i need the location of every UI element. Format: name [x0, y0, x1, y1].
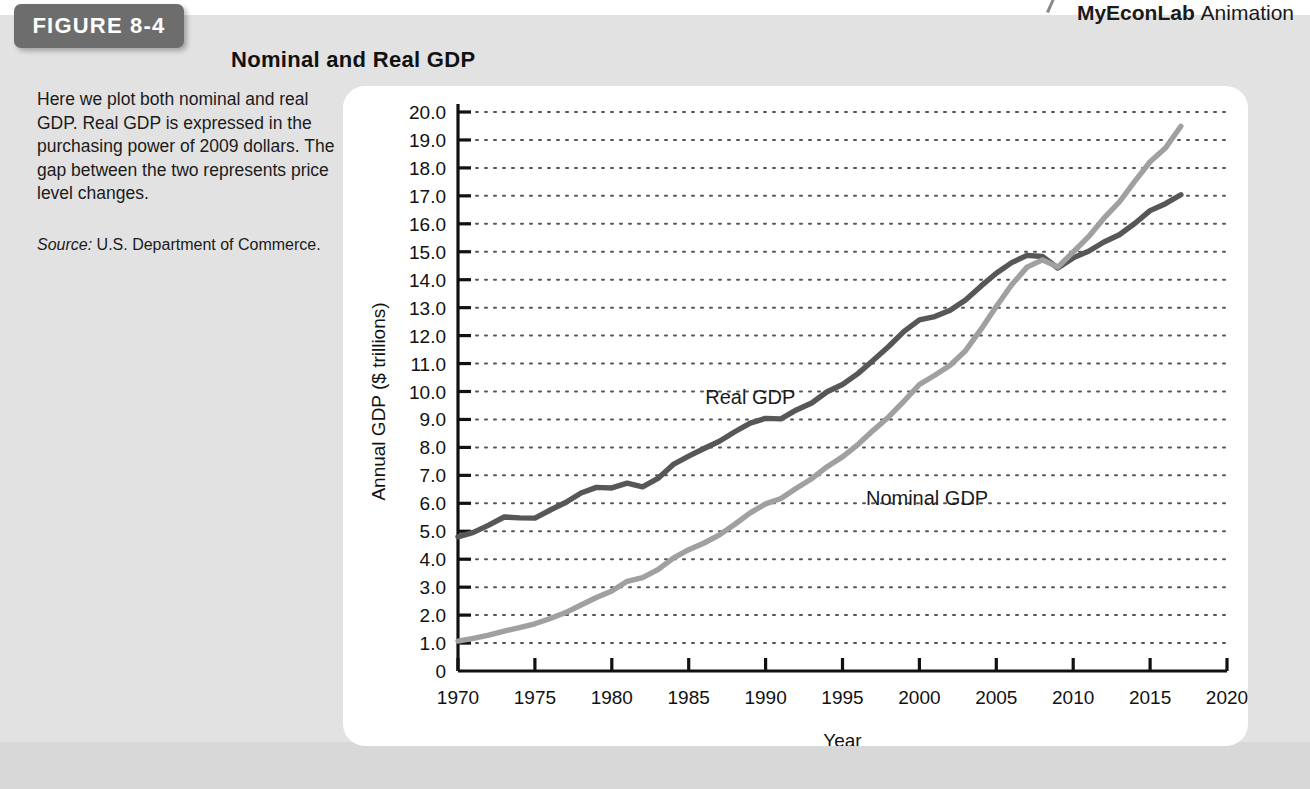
figure-source: Source: U.S. Department of Commerce.: [37, 236, 357, 254]
gdp-line-chart: 01.02.03.04.05.06.07.08.09.010.011.012.0…: [343, 86, 1248, 746]
y-tick-label: 19.0: [409, 130, 446, 151]
figure-caption: Here we plot both nominal and real GDP. …: [37, 88, 337, 206]
myeconlab-animation-word: Animation: [1201, 1, 1294, 24]
y-tick-label: 3.0: [420, 577, 446, 598]
axes: [458, 104, 1227, 671]
y-tick-label: 2.0: [420, 605, 446, 626]
source-text: U.S. Department of Commerce.: [97, 236, 321, 253]
x-tick-label: 1970: [437, 687, 479, 708]
page-gray-field-bottom: [0, 742, 1310, 789]
y-tick-label: 12.0: [409, 326, 446, 347]
y-tick-label: 16.0: [409, 214, 446, 235]
x-tick-label: 2010: [1052, 687, 1094, 708]
source-label: Source:: [37, 236, 92, 253]
y-tick-label: 17.0: [409, 186, 446, 207]
x-tick-label: 1990: [744, 687, 786, 708]
figure-number-badge: FIGURE 8-4: [14, 4, 184, 48]
y-tick-label: 4.0: [420, 549, 446, 570]
y-tick-label: 6.0: [420, 493, 446, 514]
y-tick-label: 13.0: [409, 298, 446, 319]
figure-number-label: FIGURE 8-4: [14, 4, 184, 48]
series-line-real-gdp: [458, 195, 1181, 537]
y-tick-label: 14.0: [409, 270, 446, 291]
y-axis-title: Annual GDP ($ trillions): [368, 302, 389, 500]
series-label-real-gdp: Real GDP: [705, 386, 795, 408]
y-axis-ticks: 01.02.03.04.05.06.07.08.09.010.011.012.0…: [409, 102, 471, 682]
y-tick-label: 15.0: [409, 242, 446, 263]
x-tick-label: 1995: [821, 687, 863, 708]
y-tick-label: 0: [435, 661, 446, 682]
y-tick-label: 18.0: [409, 158, 446, 179]
x-tick-label: 1980: [591, 687, 633, 708]
y-tick-label: 9.0: [420, 409, 446, 430]
x-tick-label: 2015: [1129, 687, 1171, 708]
myeconlab-label: MyEconLab Animation: [1077, 1, 1294, 25]
y-tick-label: 20.0: [409, 102, 446, 123]
y-tick-label: 7.0: [420, 465, 446, 486]
y-tick-label: 1.0: [420, 633, 446, 654]
chart-card: 01.02.03.04.05.06.07.08.09.010.011.012.0…: [343, 86, 1248, 746]
y-tick-label: 11.0: [410, 354, 446, 375]
x-tick-label: 1975: [514, 687, 556, 708]
x-tick-label: 2000: [898, 687, 940, 708]
y-tick-label: 5.0: [420, 521, 446, 542]
y-tick-label: 8.0: [420, 437, 446, 458]
x-tick-label: 1985: [668, 687, 710, 708]
myeconlab-brand: MyEconLab: [1077, 1, 1195, 24]
chart-plot-area: 01.02.03.04.05.06.07.08.09.010.011.012.0…: [343, 86, 1248, 746]
pointer-mark-icon: [1040, 0, 1066, 14]
series-label-nominal-gdp: Nominal GDP: [866, 487, 988, 509]
chart-title: Nominal and Real GDP: [231, 47, 475, 73]
gridlines: [458, 112, 1227, 643]
x-tick-label: 2020: [1206, 687, 1248, 708]
y-tick-label: 10.0: [409, 382, 446, 403]
x-tick-label: 2005: [975, 687, 1017, 708]
x-axis-ticks: 1970197519801985199019952000200520102015…: [437, 658, 1248, 708]
series-line-nominal-gdp: [458, 126, 1181, 641]
x-axis-title: Year: [823, 730, 862, 746]
